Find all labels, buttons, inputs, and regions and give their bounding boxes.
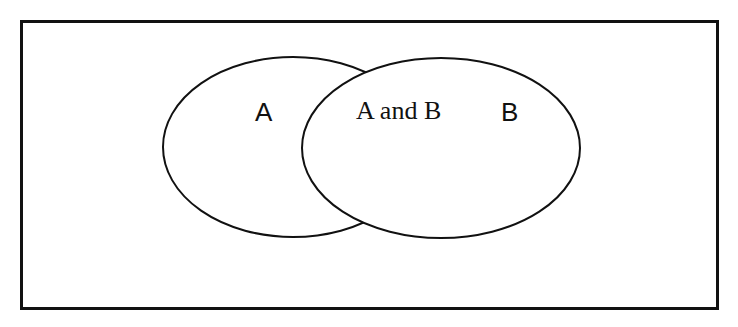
venn-diagram xyxy=(0,0,738,327)
set-b-ellipse xyxy=(302,58,580,238)
set-a-label: A xyxy=(255,99,272,125)
set-b-label: B xyxy=(501,99,518,125)
intersection-label: A and B xyxy=(356,98,441,124)
